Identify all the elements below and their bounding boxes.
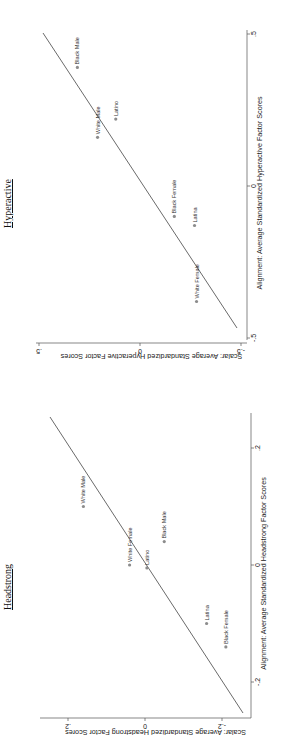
data-point-label: White Female — [194, 264, 200, 299]
data-point-marker — [76, 66, 79, 69]
data-point-marker — [145, 566, 148, 569]
scalar-axis-title: Scalar: Average Standardized Hyperactive… — [60, 352, 242, 361]
scalar-tick-label: .5 — [36, 348, 42, 355]
panel-title-hyperactive: Hyperactive — [2, 179, 13, 228]
data-point-marker — [205, 622, 208, 625]
data-point-label: White Male — [80, 476, 86, 504]
reference-line — [43, 33, 237, 328]
data-point-marker — [96, 136, 99, 139]
data-point-label: Latino — [113, 101, 119, 116]
data-point-label: Latino — [144, 550, 150, 565]
headstrong-panel: Headstrong -.20.2Alignment: Average Stan… — [2, 413, 268, 737]
data-point-label: Black Male — [74, 37, 80, 64]
alignment-tick-label: -.5 — [250, 334, 257, 342]
panel-title-headstrong: Headstrong — [2, 564, 13, 610]
hyperactive-panel: Hyperactive -.50.5Alignment: Average Sta… — [2, 30, 264, 361]
data-point-label: Black Male — [161, 511, 167, 538]
data-point-marker — [82, 505, 85, 508]
alignment-axis-title: Alignment: Average Standardized Hyperact… — [255, 96, 264, 290]
data-point-label: Black Female — [223, 610, 229, 644]
alignment-tick-label: -.2 — [254, 678, 261, 686]
alignment-axis-title: Alignment: Average Standardized Headstro… — [259, 477, 268, 670]
data-point-marker — [163, 540, 166, 543]
data-point-label: Latina — [192, 206, 198, 222]
data-point-marker — [173, 215, 176, 218]
data-point-label: White Female — [127, 527, 133, 562]
data-point-marker — [128, 563, 131, 566]
data-point-marker — [193, 224, 196, 227]
data-point-label: Latina — [204, 604, 210, 620]
alignment-tick-label: .5 — [250, 31, 257, 37]
rotated-scatter-figure: Hyperactive -.50.5Alignment: Average Sta… — [0, 0, 283, 746]
data-point-marker — [224, 645, 227, 648]
data-point-marker — [114, 118, 117, 121]
data-point-label: White Male — [95, 106, 101, 134]
plot-layer: -.20.2Alignment: Average Standardized He… — [40, 413, 268, 737]
plot-layer: -.50.5Alignment: Average Standardized Hy… — [36, 30, 264, 361]
alignment-tick-label: .2 — [254, 445, 261, 451]
data-point-label: Black Female — [171, 180, 177, 214]
scalar-axis-title: Scalar: Average Standardized Headstrong … — [65, 728, 246, 737]
data-point-marker — [195, 300, 198, 303]
